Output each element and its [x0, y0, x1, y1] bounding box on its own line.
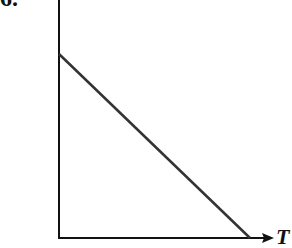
- x-axis-label: T: [276, 226, 289, 248]
- decreasing-line: [59, 54, 250, 238]
